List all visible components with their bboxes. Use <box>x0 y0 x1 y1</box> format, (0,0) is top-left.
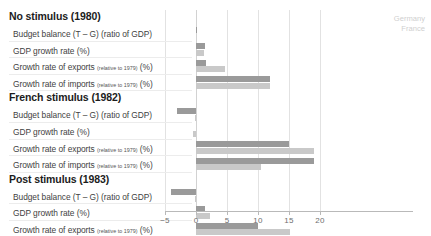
tick-label-15: 15 <box>277 216 301 225</box>
tick-label-0: 0 <box>184 216 208 225</box>
bar-france <box>196 50 204 56</box>
gridline-5 <box>227 10 228 211</box>
gridline-20 <box>320 10 321 211</box>
bar-france <box>196 83 270 89</box>
gridline-0 <box>196 10 197 211</box>
legend-item-france: France <box>394 24 425 34</box>
grouped-bar-chart: Germany France No stimulus (1980)Budget … <box>0 0 431 236</box>
row-separator <box>9 57 192 58</box>
bar-germany <box>196 43 205 49</box>
row-separator <box>9 122 192 123</box>
tick-label-10: 10 <box>246 216 270 225</box>
tick-label-20: 20 <box>308 216 332 225</box>
gridline-15 <box>289 10 290 211</box>
row-label: Budget balance (T – G) (ratio of GDP) <box>13 110 152 120</box>
row-label: Budget balance (T – G) (ratio of GDP) <box>13 192 152 202</box>
section-heading-2: Post stimulus (1983) <box>9 173 109 185</box>
bar-france <box>196 229 290 235</box>
row-separator <box>9 155 192 156</box>
tick-10 <box>258 211 259 215</box>
bar-germany <box>196 76 270 82</box>
row-label-note: (relative to 1979) <box>97 147 137 153</box>
bar-germany <box>196 60 206 66</box>
row-label: GDP growth rate (%) <box>13 46 90 56</box>
bar-germany <box>177 108 196 114</box>
row-separator <box>9 74 192 75</box>
tick-15 <box>289 211 290 215</box>
tick-label--5: −5 <box>153 216 177 225</box>
row-label-note: (relative to 1979) <box>97 163 137 169</box>
row-label: GDP growth rate (%) <box>13 208 90 218</box>
chart-legend: Germany France <box>394 14 425 34</box>
section-heading-0: No stimulus (1980) <box>9 10 101 22</box>
bar-germany <box>171 189 196 195</box>
bar-france <box>195 115 196 121</box>
tick-20 <box>320 211 321 215</box>
tick-5 <box>227 211 228 215</box>
row-label: Growth rate of imports (relative to 1979… <box>13 79 153 89</box>
row-label: GDP growth rate (%) <box>13 127 90 137</box>
bar-france <box>196 148 314 154</box>
row-separator <box>9 139 192 140</box>
row-label-note: (relative to 1979) <box>97 82 137 88</box>
bar-france <box>193 131 196 137</box>
tick--5 <box>165 211 166 215</box>
row-label: Budget balance (T – G) (ratio of GDP) <box>13 29 152 39</box>
bar-germany <box>196 141 289 147</box>
row-label: Growth rate of exports (relative to 1979… <box>13 144 153 154</box>
row-separator <box>9 203 192 204</box>
tick-0 <box>196 211 197 215</box>
tick-label-5: 5 <box>215 216 239 225</box>
row-label-note: (relative to 1979) <box>97 228 137 234</box>
row-label-note: (relative to 1979) <box>97 65 137 71</box>
bar-france <box>196 164 261 170</box>
bar-germany <box>196 27 197 33</box>
bar-france <box>196 66 225 72</box>
row-label: Growth rate of exports (relative to 1979… <box>13 62 153 72</box>
bar-france <box>195 196 196 202</box>
row-label: Growth rate of exports (relative to 1979… <box>13 225 153 235</box>
bar-germany <box>196 158 314 164</box>
gridline-10 <box>258 10 259 211</box>
row-separator <box>9 41 192 42</box>
section-heading-1: French stimulus (1982) <box>9 91 121 103</box>
legend-item-germany: Germany <box>394 14 425 24</box>
row-label: Growth rate of imports (relative to 1979… <box>13 160 153 170</box>
